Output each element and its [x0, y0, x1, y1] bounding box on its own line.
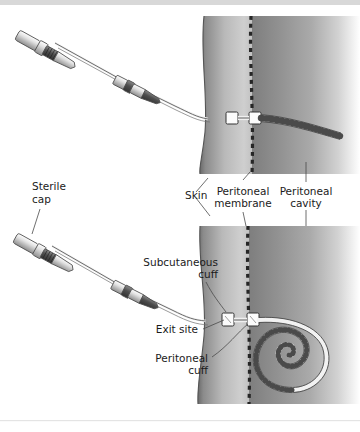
label-exit-site: Exit site	[156, 323, 198, 335]
label-subcutaneous-cuff-line2: cuff	[198, 268, 218, 280]
label-sterile-cap-line2: cap	[32, 193, 51, 205]
label-peritoneal-cavity-line2: cavity	[290, 197, 322, 209]
subcutaneous-cuff-top	[226, 112, 238, 124]
label-peritoneal-cuff-line2: cuff	[188, 364, 208, 376]
peritoneal-cavity-top	[252, 16, 360, 174]
label-sterile-cap-line1: Sterile	[32, 180, 66, 192]
label-peritoneal-membrane-line2: membrane	[214, 197, 271, 209]
figure-canvas: Skin Peritoneal membrane Peritoneal cavi…	[0, 0, 360, 432]
abdominal-wall-top	[200, 16, 255, 174]
label-peritoneal-membrane-line1: Peritoneal	[217, 185, 270, 197]
top-border-band	[0, 0, 360, 5]
label-peritoneal-cavity-line1: Peritoneal	[280, 185, 333, 197]
peritoneal-dialysis-catheter-figure: Skin Peritoneal membrane Peritoneal cavi…	[0, 0, 360, 432]
label-subcutaneous-cuff-line1: Subcutaneous	[143, 256, 218, 268]
label-skin: Skin	[185, 189, 207, 201]
bottom-border-line	[0, 420, 360, 421]
label-peritoneal-cuff-line1: Peritoneal	[155, 352, 208, 364]
